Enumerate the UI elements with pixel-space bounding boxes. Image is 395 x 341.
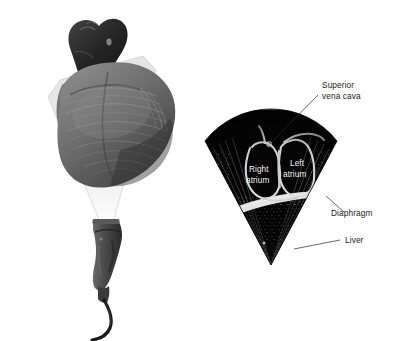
transducer-cable	[92, 300, 111, 340]
label-left-atrium-line1: Left	[290, 159, 305, 168]
probe-marker-dot	[99, 238, 103, 241]
medical-illustration: Superior vena cava Diaphragm Liver Right…	[0, 0, 395, 341]
anatomy-panel	[48, 19, 175, 340]
ultrasound-panel: Superior vena cava Diaphragm Liver Right…	[190, 80, 372, 280]
label-superior-vena-cava-line2: vena cava	[322, 91, 361, 101]
label-superior-vena-cava-line1: Superior	[322, 80, 354, 90]
aorta-highlight	[106, 39, 111, 46]
label-left-atrium-line2: atrium	[283, 170, 306, 179]
label-liver: Liver	[345, 235, 364, 245]
liver-vessel-line	[252, 244, 259, 245]
transducer-probe	[93, 222, 122, 290]
liver-leader-line	[294, 240, 340, 249]
label-diaphragm: Diaphragm	[331, 208, 372, 218]
probe-face	[93, 219, 120, 224]
label-right-atrium-line2: atrium	[246, 176, 269, 185]
label-right-atrium-line1: Right	[249, 165, 269, 174]
sector-vignette	[190, 105, 360, 280]
